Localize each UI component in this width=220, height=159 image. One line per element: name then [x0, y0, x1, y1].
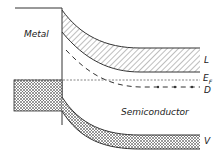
semiconductor-label: Semiconductor: [121, 108, 189, 117]
donor-level-label: D: [204, 86, 211, 95]
donor-markers: [157, 86, 193, 88]
fermi-level-label: EF: [203, 74, 212, 85]
conduction-band: [62, 10, 200, 72]
fermi-level-sub: F: [209, 78, 212, 85]
metal-filled-states: [14, 80, 62, 111]
band-diagram: [0, 0, 220, 159]
metal-label: Metal: [24, 30, 49, 39]
valence-band-label: V: [204, 137, 210, 146]
conduction-band-label: L: [204, 56, 209, 65]
valence-band: [62, 97, 200, 149]
